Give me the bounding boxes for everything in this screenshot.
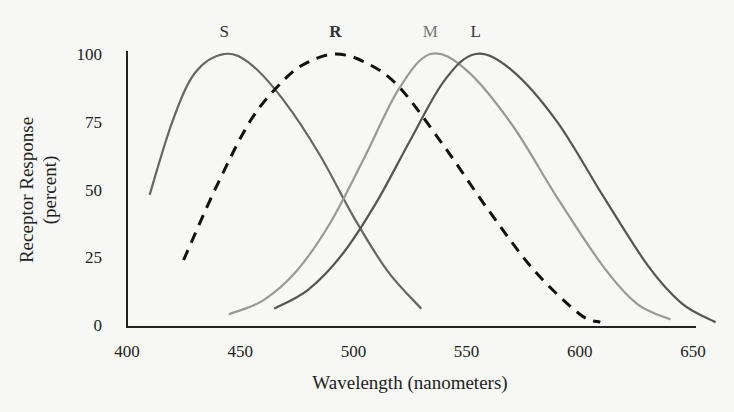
curve-r [184,54,601,322]
y-tick-label: 25 [85,248,102,267]
x-tick-label: 600 [567,342,593,361]
y-tick-label: 50 [85,181,102,200]
y-tick-labels: 0255075100 [77,45,103,335]
curve-m [229,53,671,319]
x-axis-label: Wavelength (nanometers) [312,372,507,394]
x-tick-label: 500 [341,342,367,361]
x-tick-label: 650 [680,342,706,361]
x-tick-label: 450 [227,342,253,361]
receptor-response-chart: 0255075100 400450500550600650 SRML Wavel… [0,0,734,412]
curve-label-r: R [329,22,342,41]
x-tick-label: 550 [454,342,480,361]
y-tick-label: 75 [85,113,102,132]
curve-label-s: S [220,22,229,41]
y-axis-label-line1: Receptor Response [16,117,37,263]
x-tick-label: 400 [114,342,140,361]
y-tick-label: 100 [77,45,103,64]
y-axis-label: Receptor Response (percent) [16,117,61,263]
axes [126,51,696,327]
y-axis-label-line2: (percent) [39,156,61,225]
curves [150,53,716,322]
curve-labels: SRML [220,22,481,41]
curve-label-m: M [423,22,438,41]
curve-l [274,54,715,323]
curve-label-l: L [470,22,480,41]
curve-s [150,54,422,309]
x-tick-labels: 400450500550600650 [114,342,706,361]
y-tick-label: 0 [94,316,103,335]
